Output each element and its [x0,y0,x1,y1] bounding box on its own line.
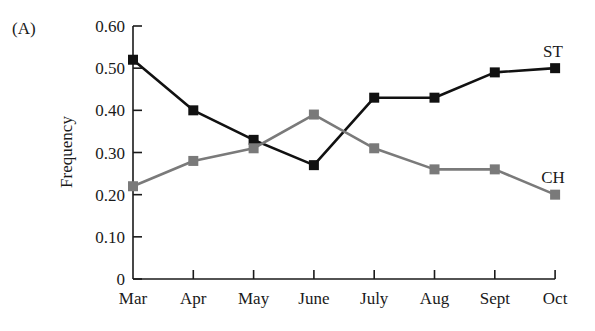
y-tick-label: 0.10 [95,228,125,247]
square-marker-icon [369,143,379,153]
y-tick-label: 0.20 [95,186,125,205]
square-marker-icon [550,190,560,200]
square-marker-icon [188,105,198,115]
x-tick-labels: MarAprMayJuneJulyAugSeptOct [119,289,568,308]
square-marker-icon [249,143,259,153]
square-marker-icon [188,156,198,166]
axes [133,26,555,279]
x-tick-label: Mar [119,289,148,308]
square-marker-icon [490,164,500,174]
x-tick-label: Aug [420,289,450,308]
square-marker-icon [490,67,500,77]
x-tick-label: Sept [480,289,511,308]
y-tick-labels: 00.100.200.300.400.500.60 [95,17,125,289]
series-line [133,115,555,195]
y-tick-label: 0.50 [95,59,125,78]
y-tick-label: 0 [117,270,126,289]
square-marker-icon [309,110,319,120]
series-group [128,55,560,200]
line-chart: (A) Frequency 00.100.200.300.400.500.60 … [0,0,595,331]
y-tick-label: 0.40 [95,101,125,120]
square-marker-icon [128,55,138,65]
square-marker-icon [309,160,319,170]
x-tick-label: May [238,289,270,308]
square-marker-icon [430,93,440,103]
x-tick-label: June [298,289,329,308]
square-marker-icon [430,164,440,174]
y-tick-label: 0.30 [95,144,125,163]
x-tick-label: Apr [180,289,207,308]
square-marker-icon [550,63,560,73]
square-marker-icon [128,181,138,191]
x-tick-label: Oct [543,289,568,308]
y-axis-label: Frequency [57,116,76,188]
y-tick-label: 0.60 [95,17,125,36]
series-label-st: ST [543,42,563,61]
series-st [128,55,560,170]
square-marker-icon [369,93,379,103]
x-tick-label: July [360,289,389,308]
series-ch [128,110,560,200]
series-label-ch: CH [541,168,565,187]
panel-label: (A) [12,19,36,38]
